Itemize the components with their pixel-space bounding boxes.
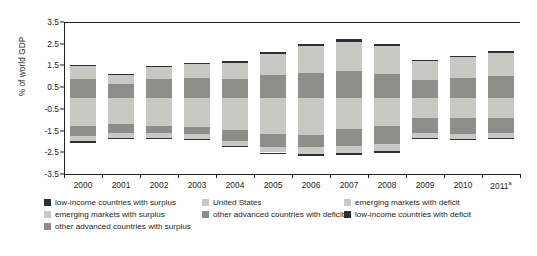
bar-segment[interactable]: [108, 124, 135, 133]
bar-segment[interactable]: [222, 79, 249, 98]
bar-segment[interactable]: [222, 61, 249, 63]
bar-segment[interactable]: [488, 53, 515, 76]
bar-column[interactable]: [374, 22, 401, 174]
legend-item[interactable]: emerging markets with surplus: [44, 210, 165, 219]
bar-segment[interactable]: [222, 63, 249, 79]
bar-segment[interactable]: [488, 138, 515, 139]
bar-segment[interactable]: [412, 98, 439, 118]
legend-item[interactable]: other advanced countries with deficit: [202, 210, 344, 219]
bar-segment[interactable]: [184, 139, 211, 140]
bar-segment[interactable]: [184, 64, 211, 77]
bar-segment[interactable]: [412, 80, 439, 98]
bar-segment[interactable]: [450, 57, 477, 78]
bar-column[interactable]: [412, 22, 439, 174]
bar-segment[interactable]: [336, 42, 363, 71]
y-tick-mark: [60, 87, 64, 88]
bar-segment[interactable]: [108, 138, 135, 139]
bar-column[interactable]: [108, 22, 135, 174]
y-tick-mark: [60, 130, 64, 131]
bar-segment[interactable]: [260, 153, 287, 155]
bar-segment[interactable]: [146, 126, 173, 134]
bar-segment[interactable]: [412, 118, 439, 134]
bar-segment[interactable]: [222, 98, 249, 130]
bar-segment[interactable]: [222, 146, 249, 147]
bar-segment[interactable]: [146, 79, 173, 98]
bar-segment[interactable]: [336, 153, 363, 155]
bar-segment[interactable]: [146, 67, 173, 79]
bar-segment[interactable]: [146, 98, 173, 126]
bar-segment[interactable]: [374, 126, 401, 145]
bar-column[interactable]: [488, 22, 515, 174]
bar-column[interactable]: [184, 22, 211, 174]
bar-segment[interactable]: [298, 98, 325, 135]
bar-segment[interactable]: [298, 73, 325, 98]
legend-swatch-icon: [202, 199, 209, 206]
bar-segment[interactable]: [108, 98, 135, 124]
bar-column[interactable]: [336, 22, 363, 174]
bar-segment[interactable]: [184, 78, 211, 98]
bar-segment[interactable]: [450, 98, 477, 118]
legend-item[interactable]: emerging markets with deficit: [344, 198, 460, 207]
bar-segment[interactable]: [184, 63, 211, 64]
bar-segment[interactable]: [488, 118, 515, 133]
bar-segment[interactable]: [70, 79, 97, 98]
bar-segment[interactable]: [374, 144, 401, 151]
bar-segment[interactable]: [450, 118, 477, 134]
bar-column[interactable]: [298, 22, 325, 174]
x-tick-mark: [292, 174, 293, 178]
bar-segment[interactable]: [146, 66, 173, 67]
legend-item[interactable]: low-income countries with surplus: [44, 198, 176, 207]
bar-column[interactable]: [450, 22, 477, 174]
bar-column[interactable]: [146, 22, 173, 174]
bar-segment[interactable]: [412, 60, 439, 61]
x-tick-mark: [368, 174, 369, 178]
bar-column[interactable]: [260, 22, 287, 174]
bar-segment[interactable]: [374, 98, 401, 126]
bar-segment[interactable]: [70, 66, 97, 79]
bar-segment[interactable]: [412, 61, 439, 79]
bar-segment[interactable]: [336, 39, 363, 42]
bar-segment[interactable]: [298, 44, 325, 46]
bar-segment[interactable]: [184, 127, 211, 135]
bar-segment[interactable]: [450, 56, 477, 57]
bar-segment[interactable]: [260, 134, 287, 147]
bar-segment[interactable]: [108, 75, 135, 84]
bar-segment[interactable]: [260, 98, 287, 134]
bar-segment[interactable]: [108, 84, 135, 98]
bar-segment[interactable]: [184, 98, 211, 127]
bar-segment[interactable]: [336, 98, 363, 129]
bar-segment[interactable]: [450, 139, 477, 140]
bar-segment[interactable]: [70, 141, 97, 142]
bar-segment[interactable]: [450, 78, 477, 98]
bar-segment[interactable]: [260, 75, 287, 98]
bar-segment[interactable]: [298, 154, 325, 156]
legend-item[interactable]: other advanced countries with surplus: [44, 222, 191, 231]
bar-segment[interactable]: [70, 98, 97, 126]
bar-column[interactable]: [222, 22, 249, 174]
bar-column[interactable]: [70, 22, 97, 174]
bar-segment[interactable]: [70, 126, 97, 136]
bar-segment[interactable]: [488, 51, 515, 53]
bar-segment[interactable]: [260, 52, 287, 54]
legend-item[interactable]: low-income countries with deficit: [344, 210, 471, 219]
bar-segment[interactable]: [374, 74, 401, 98]
bar-segment[interactable]: [298, 46, 325, 73]
bar-segment[interactable]: [374, 44, 401, 46]
bar-stack: [488, 22, 515, 174]
chart-page: % of world GDP 3.52.51.50.5-0.5-1.5-2.5-…: [0, 0, 537, 256]
legend-item[interactable]: United States: [202, 198, 262, 207]
bar-segment[interactable]: [146, 138, 173, 139]
bar-segment[interactable]: [336, 129, 363, 146]
bar-segment[interactable]: [260, 54, 287, 75]
bar-segment[interactable]: [222, 130, 249, 141]
bar-segment[interactable]: [488, 76, 515, 98]
bar-segment[interactable]: [374, 151, 401, 153]
bar-segment[interactable]: [412, 138, 439, 139]
bar-segment[interactable]: [488, 98, 515, 118]
bar-segment[interactable]: [374, 46, 401, 74]
bar-segment[interactable]: [298, 135, 325, 147]
bar-segment[interactable]: [108, 74, 135, 75]
bar-segment[interactable]: [298, 147, 325, 154]
bar-segment[interactable]: [336, 71, 363, 98]
bar-segment[interactable]: [70, 65, 97, 66]
